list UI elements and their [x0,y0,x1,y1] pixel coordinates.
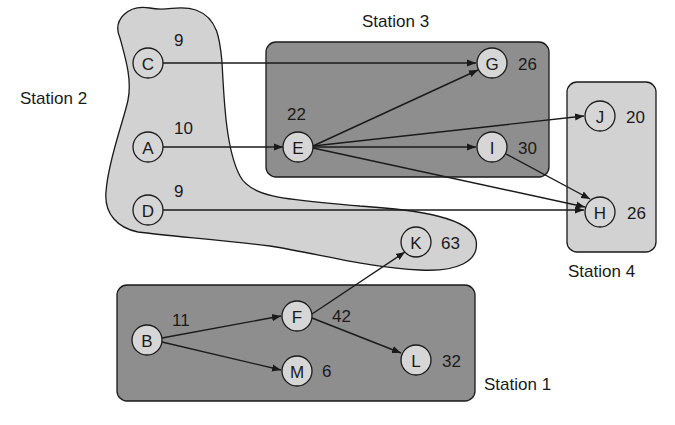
node-D-time: 9 [174,182,183,201]
node-A-time: 10 [174,119,193,138]
node-H-label: H [594,204,606,223]
node-I-time: 30 [518,139,537,158]
node-G-label: G [485,55,498,74]
node-M-time: 6 [322,362,331,381]
node-C-label: C [142,55,154,74]
node-K-label: K [410,234,422,253]
node-B-label: B [141,332,152,351]
node-F-time: 42 [332,307,351,326]
node-C-time: 9 [174,31,183,50]
precedence-diagram: Station 3 Station 2 Station 4 Station 1 … [0,0,675,425]
node-F-label: F [292,308,302,327]
station-4-label: Station 4 [568,262,635,281]
node-J-time: 20 [626,108,645,127]
node-L-time: 32 [442,352,461,371]
station-1-label: Station 1 [484,375,551,394]
station-2-label: Station 2 [20,89,87,108]
node-D-label: D [142,202,154,221]
node-E-label: E [292,139,303,158]
station-3-label: Station 3 [362,12,429,31]
node-L-label: L [411,352,420,371]
node-B-time: 11 [172,311,190,330]
node-E-time: 22 [287,105,306,124]
node-I-label: I [490,139,495,158]
node-A-label: A [142,139,154,158]
node-H-time: 26 [627,204,646,223]
node-M-label: M [290,363,304,382]
node-K-time: 63 [441,234,460,253]
node-J-label: J [596,108,605,127]
node-G-time: 26 [518,55,537,74]
